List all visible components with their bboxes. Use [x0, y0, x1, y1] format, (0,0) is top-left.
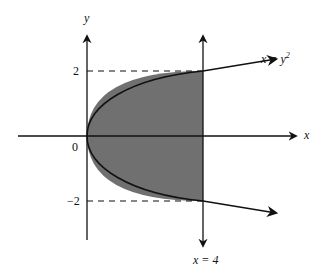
x-axis-label: x [303, 128, 310, 142]
curve-label: x = y2 [260, 51, 290, 66]
vertical-line-label: x = 4 [192, 253, 218, 267]
tick-label-neg2: −2 [67, 194, 80, 208]
curve-label-exponent: 2 [286, 51, 290, 60]
tick-label-2: 2 [73, 64, 79, 78]
diagram-canvas: y x 0 2 −2 x = y2 x = 4 [0, 0, 321, 277]
origin-label: 0 [72, 140, 78, 154]
curve-label-base: x = y [260, 52, 286, 66]
y-axis-label: y [83, 11, 90, 25]
